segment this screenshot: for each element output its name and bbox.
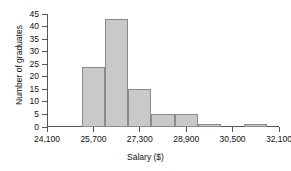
- y-axis-tick: [42, 114, 47, 115]
- y-axis-tick: [42, 26, 47, 27]
- histogram-bar: [82, 67, 105, 127]
- y-axis-tick: [42, 101, 47, 102]
- y-axis-tick: [42, 89, 47, 90]
- y-axis-tick: [42, 76, 47, 77]
- x-axis-tick-label: 24,100: [24, 135, 70, 144]
- y-axis-tick-label: 10: [13, 97, 39, 106]
- x-axis-title: Salary ($): [0, 152, 291, 162]
- histogram-bar: [198, 124, 221, 127]
- x-axis-tick: [139, 127, 140, 132]
- x-axis-tick-label: 28,900: [163, 135, 209, 144]
- x-axis-tick-label: 25,700: [70, 135, 116, 144]
- x-axis-tick: [47, 127, 48, 132]
- y-axis-tick-label: 45: [13, 10, 39, 19]
- y-axis-tick: [42, 51, 47, 52]
- y-axis-tick: [42, 14, 47, 15]
- y-axis-tick-label: 25: [13, 60, 39, 69]
- x-axis-tick: [232, 127, 233, 132]
- x-axis-tick-label: 32,100: [256, 135, 291, 144]
- histogram-bar: [244, 124, 267, 127]
- x-axis-tick: [279, 127, 280, 132]
- y-axis-tick-label: 15: [13, 85, 39, 94]
- plot-area: 051015202530354045 24,10025,70027,30028,…: [47, 14, 279, 127]
- histogram-bar: [105, 19, 128, 127]
- y-axis-tick-label: 20: [13, 72, 39, 81]
- y-axis-tick-label: 30: [13, 47, 39, 56]
- histogram-bar: [151, 114, 174, 127]
- x-axis-tick: [186, 127, 187, 132]
- y-axis-tick-label: 35: [13, 35, 39, 44]
- y-axis-tick-label: 40: [13, 22, 39, 31]
- y-axis-tick: [42, 64, 47, 65]
- histogram-figure: Number of graduates 051015202530354045 2…: [0, 0, 291, 171]
- x-axis-tick-label: 27,300: [117, 135, 163, 144]
- y-axis-tick: [42, 39, 47, 40]
- x-axis-tick-label: 30,500: [210, 135, 256, 144]
- y-axis-tick-label: 5: [13, 110, 39, 119]
- y-axis-line: [47, 14, 48, 127]
- y-axis-tick-labels: 051015202530354045: [13, 14, 39, 127]
- x-axis-tick: [93, 127, 94, 132]
- y-axis-tick-label: 0: [13, 123, 39, 132]
- histogram-bar: [128, 89, 151, 127]
- histogram-bar: [175, 114, 198, 127]
